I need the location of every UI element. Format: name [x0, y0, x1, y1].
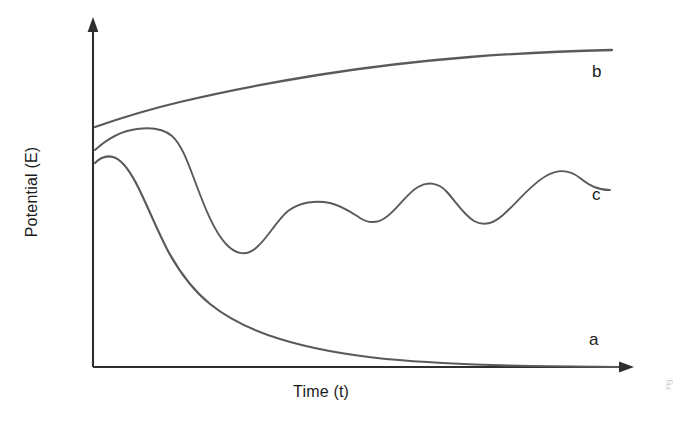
edge-caption-fragment: Fig.	[665, 272, 679, 390]
curve-label-a: a	[589, 331, 598, 348]
curve-c-path	[95, 128, 610, 253]
chart-figure: Potential (E) Time (t) b c a Fig.	[0, 0, 680, 423]
curve-a-path	[95, 156, 618, 367]
chart-plot-area	[0, 0, 680, 423]
y-axis-label: Potential (E)	[23, 112, 41, 272]
x-axis-arrow-icon	[619, 362, 634, 373]
y-axis-arrow-icon	[88, 17, 99, 32]
curve-label-b: b	[592, 63, 601, 80]
x-axis-label: Time (t)	[293, 383, 349, 401]
curve-label-c: c	[592, 186, 601, 203]
curve-b-path	[95, 50, 612, 127]
